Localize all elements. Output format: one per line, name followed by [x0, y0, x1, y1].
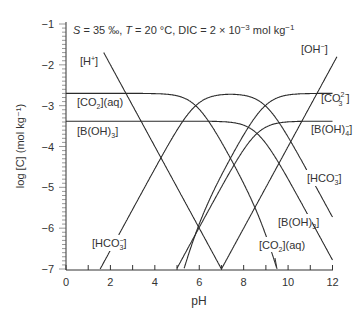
x-tick-label: 10 [282, 276, 294, 288]
label-boh3-right: [B(OH)3] [278, 216, 319, 230]
y-tick-label: −4 [41, 141, 54, 153]
y-tick-label: −6 [41, 222, 54, 234]
y-ticks: −1−2−3−4−5−6−7 [41, 18, 66, 275]
label-hco3-right: [HCO−3] [307, 172, 342, 186]
label-co3: [CO2−3] [321, 91, 350, 107]
bjerrum-plot: 024681012 −1−2−3−4−5−6−7 pH log [C] (mol… [0, 0, 363, 318]
y-tick-label: −2 [41, 59, 54, 71]
x-tick-label: 2 [107, 276, 113, 288]
x-ticks: 024681012 [63, 265, 339, 288]
label-oh: [OH−] [301, 43, 328, 55]
y-tick-label: −3 [41, 100, 54, 112]
x-tick-label: 0 [63, 276, 69, 288]
label-boh4: [B(OH)−4] [311, 123, 352, 137]
label-boh3-left: [B(OH)3] [77, 125, 118, 139]
x-tick-label: 8 [241, 276, 247, 288]
y-axis-label: log [C] (mol kg⁻¹) [14, 104, 26, 188]
label-co2-left: [CO2](aq) [77, 96, 123, 110]
label-co2-right: [CO2](aq) [259, 239, 305, 253]
x-tick-label: 4 [152, 276, 158, 288]
x-tick-label: 12 [326, 276, 338, 288]
y-tick-label: −5 [41, 181, 54, 193]
chart-title: S = 35 ‰, T = 20 °C, DIC = 2 × 10−3 mol … [73, 23, 295, 36]
y-tick-label: −7 [41, 263, 54, 275]
curve-boh4 [177, 121, 333, 268]
label-h: [H+] [80, 55, 98, 67]
y-tick-label: −1 [41, 18, 54, 30]
x-axis-label: pH [191, 294, 206, 308]
label-hco3-left: [HCO−3] [92, 237, 127, 251]
x-tick-label: 6 [196, 276, 202, 288]
